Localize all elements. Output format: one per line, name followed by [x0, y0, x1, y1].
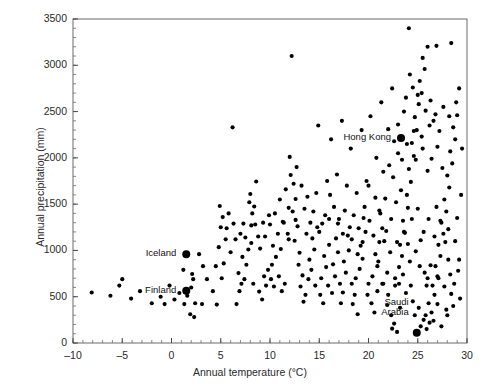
- data-point: [257, 290, 261, 294]
- data-point: [410, 141, 414, 145]
- data-point: [437, 129, 441, 133]
- data-point: [298, 284, 302, 288]
- x-axis-title: Annual temperature (°C): [0, 366, 500, 378]
- data-point: [426, 276, 430, 280]
- data-point: [205, 277, 209, 281]
- data-point: [402, 110, 406, 114]
- data-point: [432, 293, 436, 297]
- data-point: [292, 182, 296, 186]
- data-point: [211, 289, 215, 293]
- data-point: [448, 149, 452, 153]
- data-point: [390, 327, 394, 331]
- data-point: [296, 263, 300, 267]
- data-point: [249, 223, 253, 227]
- x-tick-label: 10: [250, 349, 290, 361]
- data-point: [366, 282, 370, 286]
- data-point: [177, 291, 181, 295]
- data-point: [447, 114, 451, 118]
- data-point: [357, 226, 361, 230]
- data-point: [261, 221, 265, 225]
- data-point: [309, 268, 313, 272]
- data-point: [264, 284, 268, 288]
- data-point: [246, 247, 250, 251]
- data-point: [393, 276, 397, 280]
- data-point: [407, 167, 411, 171]
- data-point: [231, 125, 235, 129]
- data-point: [458, 296, 462, 300]
- data-point: [397, 265, 401, 269]
- data-point: [231, 222, 235, 226]
- data-point: [193, 301, 197, 305]
- data-point: [334, 236, 338, 240]
- point-annotation-label: Iceland: [76, 248, 176, 259]
- data-point: [442, 197, 446, 201]
- data-point: [344, 271, 348, 275]
- data-point: [277, 274, 281, 278]
- data-point: [294, 218, 298, 222]
- data-point: [456, 269, 460, 273]
- data-point: [428, 321, 432, 325]
- data-point: [262, 274, 266, 278]
- data-point: [373, 252, 377, 256]
- data-point: [319, 276, 323, 280]
- data-point: [428, 98, 432, 102]
- data-point: [338, 282, 342, 286]
- data-point: [452, 282, 456, 286]
- data-point: [241, 222, 245, 226]
- data-point: [384, 229, 388, 233]
- data-point: [330, 291, 334, 295]
- data-point: [417, 102, 421, 106]
- data-point: [340, 119, 344, 123]
- data-point: [390, 86, 394, 90]
- data-point: [412, 154, 416, 158]
- data-point: [335, 172, 339, 176]
- data-point: [345, 184, 349, 188]
- data-point: [200, 302, 204, 306]
- data-point: [429, 310, 433, 314]
- data-point: [270, 263, 274, 267]
- data-point: [451, 304, 455, 308]
- data-point: [375, 289, 379, 293]
- data-point: [256, 234, 260, 238]
- data-point: [426, 169, 430, 173]
- data-point: [249, 241, 253, 245]
- data-point: [238, 232, 242, 236]
- data-point: [350, 282, 354, 286]
- y-tick-label: 500: [21, 290, 67, 302]
- data-point: [258, 247, 262, 251]
- data-point: [407, 26, 411, 30]
- data-point: [405, 142, 409, 146]
- data-point: [224, 237, 228, 241]
- data-point: [418, 264, 422, 268]
- data-point: [423, 67, 427, 71]
- data-point: [225, 226, 229, 230]
- data-point: [266, 268, 270, 272]
- data-point: [435, 302, 439, 306]
- data-point: [328, 193, 332, 197]
- data-point: [172, 297, 176, 301]
- data-point: [392, 139, 396, 143]
- x-tick-label: –10: [53, 349, 93, 361]
- data-point: [150, 301, 154, 305]
- y-axis-title: Annual precipitation (mm): [34, 47, 46, 327]
- data-point: [420, 91, 424, 95]
- data-point: [396, 151, 400, 155]
- data-point: [243, 235, 247, 239]
- data-point: [233, 237, 237, 241]
- data-point: [370, 274, 374, 278]
- data-point: [320, 222, 324, 226]
- data-point: [420, 134, 424, 138]
- data-point: [362, 205, 366, 209]
- data-point: [227, 211, 231, 215]
- data-point: [363, 230, 367, 234]
- highlighted-data-point: [413, 329, 421, 337]
- data-point: [315, 225, 319, 229]
- data-point: [325, 179, 329, 183]
- data-point: [343, 209, 347, 213]
- data-point: [301, 300, 305, 304]
- data-point: [268, 222, 272, 226]
- data-point: [444, 209, 448, 213]
- data-point: [311, 209, 315, 213]
- data-point: [305, 195, 309, 199]
- data-point: [388, 250, 392, 254]
